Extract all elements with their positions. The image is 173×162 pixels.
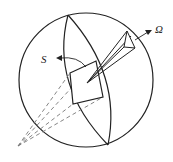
surface-patch-s (70, 61, 103, 104)
surface-label: S (41, 53, 47, 65)
surface-arrowhead-icon (56, 55, 62, 61)
solid-angle-arrowhead-icon (145, 30, 152, 35)
solid-angle-diagram: S Ω (0, 0, 173, 162)
solid-angle-label: Ω (155, 23, 163, 35)
solid-angle-cone (87, 31, 135, 83)
